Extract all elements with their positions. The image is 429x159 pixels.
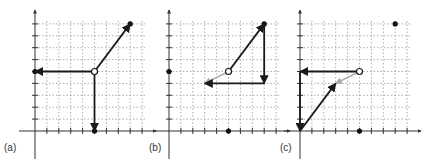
vector-addition-figure: (a)(b)(c) — [0, 0, 429, 159]
axes — [19, 10, 156, 159]
point-dot — [226, 128, 231, 133]
open-point-circle — [357, 69, 363, 75]
panel-label: (b) — [149, 142, 161, 153]
vector-arrow — [95, 24, 131, 72]
open-point-circle — [92, 69, 98, 75]
panel-label: (c) — [280, 142, 292, 153]
grid — [300, 20, 411, 131]
panel-c: (c) — [280, 10, 421, 159]
grid — [35, 20, 146, 131]
vector-arrow — [300, 83, 336, 131]
panel-a: (a) — [4, 10, 156, 159]
point-dot — [166, 69, 171, 74]
vector-arrow — [229, 24, 265, 72]
point-dot — [393, 21, 398, 26]
panel-b: (b) — [149, 10, 290, 159]
panel-label: (a) — [4, 142, 16, 153]
point-dot — [357, 128, 362, 133]
axes — [153, 10, 290, 159]
axes — [284, 10, 421, 159]
open-point-circle — [226, 69, 232, 75]
